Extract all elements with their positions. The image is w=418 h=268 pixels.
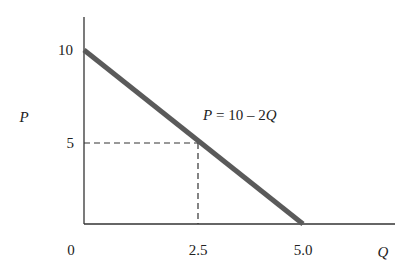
origin-label: 0 bbox=[67, 242, 75, 258]
demand-line bbox=[84, 50, 303, 224]
x-axis-label: Q bbox=[378, 244, 389, 260]
equation-rest: = 10 – 2 bbox=[212, 107, 265, 123]
y-axis-label: P bbox=[18, 109, 28, 125]
equation-p: P bbox=[202, 107, 212, 123]
equation-label: P = 10 – 2Q bbox=[202, 107, 277, 123]
demand-chart: 10 5 P 0 2.5 5.0 Q P = 10 – 2Q bbox=[0, 0, 418, 268]
tick-x-2-5: 2.5 bbox=[189, 242, 208, 258]
tick-y-10: 10 bbox=[58, 42, 73, 58]
tick-x-5-0: 5.0 bbox=[294, 242, 313, 258]
tick-y-5: 5 bbox=[67, 135, 75, 151]
equation-q: Q bbox=[266, 107, 277, 123]
